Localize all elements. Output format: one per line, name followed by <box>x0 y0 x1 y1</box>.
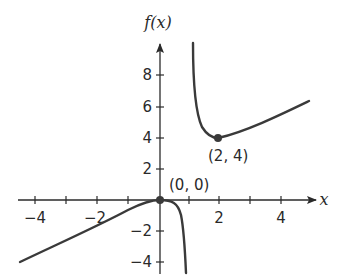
x-axis-title: x <box>319 190 328 209</box>
x-tick-label: −4 <box>24 209 46 227</box>
y-tick-label: 8 <box>142 66 152 84</box>
origin-point-label: (0, 0) <box>169 176 209 194</box>
y-axis-title: f(x) <box>143 13 171 32</box>
minimum-point-label: (2, 4) <box>208 147 248 165</box>
y-tick-label: 6 <box>142 98 152 116</box>
x-tick-label: −2 <box>84 209 106 227</box>
x-tick-label: 4 <box>276 209 286 227</box>
curve-right-branch <box>193 43 309 138</box>
y-tick-label: 4 <box>142 129 152 147</box>
function-graph: −4 −2 2 4 8 6 4 2 −2 −4 f(x) x (0, 0) (2… <box>0 0 344 279</box>
y-tick-label: 2 <box>142 160 152 178</box>
y-tick-label: −4 <box>130 253 152 271</box>
minimum-point-marker <box>214 134 222 142</box>
origin-point-marker <box>156 196 164 204</box>
y-tick-label: −2 <box>130 222 152 240</box>
x-tick-label: 2 <box>214 209 224 227</box>
